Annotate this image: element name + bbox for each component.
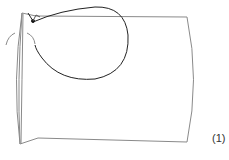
cylinder-right-edge: [187, 17, 194, 142]
cylinder: [6, 13, 194, 144]
diagram-canvas: [0, 0, 229, 160]
cylinder-bottom-edge: [20, 138, 187, 144]
thread-loop: [28, 7, 128, 79]
cylinder-rim-inner-2: [21, 14, 23, 143]
thread: [33, 7, 128, 79]
figure-label: (1): [212, 132, 225, 144]
left-arc: [6, 33, 15, 45]
inner-arc: [27, 33, 35, 44]
